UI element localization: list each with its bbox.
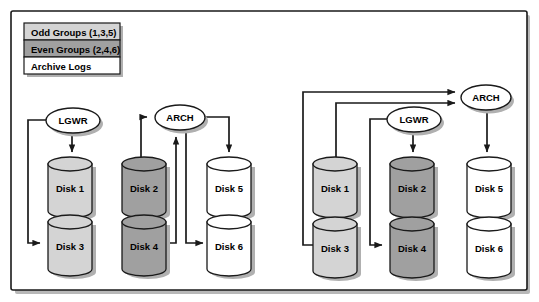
disk-3-right: Disk 3 <box>313 217 361 281</box>
disk-3: Disk 3 <box>48 215 96 279</box>
disk-5-right: Disk 5 <box>467 157 515 221</box>
legend-label-archive-logs: Archive Logs <box>31 61 91 72</box>
legend: Odd Groups (1,3,5) Even Groups (2,4,6) A… <box>24 23 123 77</box>
disk-4-right: Disk 4 <box>390 217 438 281</box>
node-arch-right-label: ARCH <box>472 92 500 103</box>
disk-2-right: Disk 2 <box>390 157 438 221</box>
node-lgwr-left-label: LGWR <box>58 115 87 126</box>
disk-5: Disk 5 <box>207 157 255 221</box>
disk-4-right-label: Disk 4 <box>398 243 427 254</box>
disk-1-top <box>48 157 92 171</box>
disk-5-top <box>207 157 251 171</box>
disk-4-top <box>122 215 166 229</box>
disk-3-label: Disk 3 <box>56 241 84 252</box>
node-arch-left-label: ARCH <box>166 112 194 123</box>
disk-4-label: Disk 4 <box>130 241 159 252</box>
disk-4: Disk 4 <box>122 215 170 279</box>
legend-label-even-groups: Even Groups (2,4,6) <box>31 44 120 55</box>
disk-3-top <box>48 215 92 229</box>
disk-6-top <box>207 215 251 229</box>
diagram-canvas: Odd Groups (1,3,5) Even Groups (2,4,6) A… <box>0 0 539 302</box>
disk-2-top <box>122 157 166 171</box>
disk-1-right-label: Disk 1 <box>321 183 350 194</box>
disk-5-right-label: Disk 5 <box>475 183 504 194</box>
legend-item-odd-groups: Odd Groups (1,3,5) <box>24 23 120 40</box>
disk-1-right-top <box>313 157 357 171</box>
disk-5-label: Disk 5 <box>215 183 244 194</box>
disk-6-right: Disk 6 <box>467 217 515 281</box>
disk-5-right-top <box>467 157 511 171</box>
disk-1: Disk 1 <box>48 157 96 221</box>
disk-1-label: Disk 1 <box>56 183 85 194</box>
disk-6-label: Disk 6 <box>215 241 243 252</box>
disk-6: Disk 6 <box>207 215 255 279</box>
node-lgwr-right-label: LGWR <box>399 114 428 125</box>
legend-item-archive-logs: Archive Logs <box>24 57 120 74</box>
disk-2-right-top <box>390 157 434 171</box>
disk-3-right-top <box>313 217 357 231</box>
disk-4-right-top <box>390 217 434 231</box>
disk-2-label: Disk 2 <box>130 183 158 194</box>
legend-label-odd-groups: Odd Groups (1,3,5) <box>31 27 117 38</box>
legend-item-even-groups: Even Groups (2,4,6) <box>24 40 120 57</box>
disk-2: Disk 2 <box>122 157 170 221</box>
disk-1-right: Disk 1 <box>313 157 361 221</box>
disk-3-right-label: Disk 3 <box>321 243 349 254</box>
disk-6-right-top <box>467 217 511 231</box>
disk-2-right-label: Disk 2 <box>398 183 426 194</box>
disk-layout-diagram: Odd Groups (1,3,5) Even Groups (2,4,6) A… <box>0 0 539 302</box>
disk-6-right-label: Disk 6 <box>475 243 503 254</box>
